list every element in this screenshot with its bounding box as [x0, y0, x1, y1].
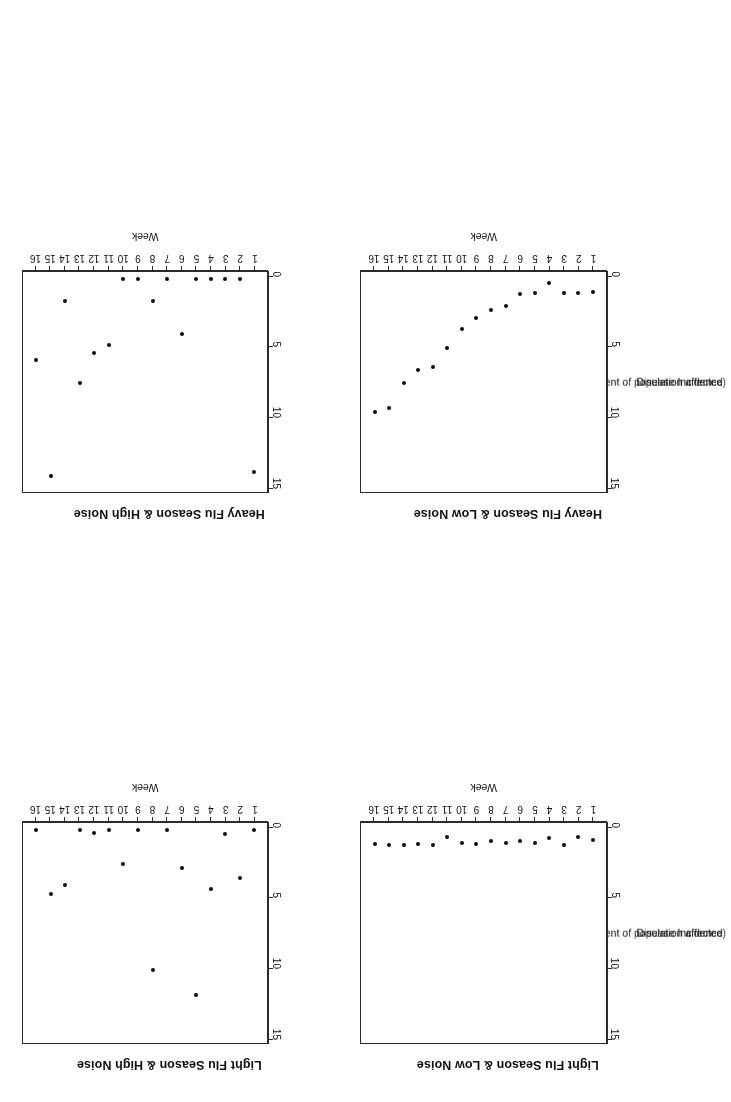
- data-point: [223, 277, 227, 281]
- x-tick-label: 1: [591, 253, 597, 264]
- x-tick: [108, 817, 109, 822]
- data-point: [165, 277, 169, 281]
- x-tick-label: 5: [532, 804, 538, 815]
- x-tick: [534, 817, 535, 822]
- x-tick: [210, 266, 211, 271]
- data-point: [151, 968, 155, 972]
- data-point: [576, 835, 580, 839]
- x-tick-label: 6: [518, 253, 524, 264]
- y-tick-label: 0: [610, 822, 621, 828]
- x-tick: [505, 266, 506, 271]
- data-point: [92, 831, 96, 835]
- x-tick-label: 2: [576, 253, 582, 264]
- y-tick-label: 10: [271, 958, 282, 969]
- x-axis: 12345678910111213141516: [22, 245, 269, 271]
- data-point: [402, 843, 406, 847]
- y-axis: 051015: [607, 822, 629, 1044]
- y-tick-label: 15: [610, 1028, 621, 1039]
- data-point: [416, 842, 420, 846]
- plot-area: [22, 822, 269, 1044]
- x-tick-label: 9: [474, 804, 480, 815]
- x-axis-line: [22, 270, 269, 271]
- data-point: [475, 316, 479, 320]
- x-tick: [35, 266, 36, 271]
- data-point: [180, 866, 184, 870]
- x-tick: [166, 266, 167, 271]
- x-tick: [108, 266, 109, 271]
- data-point: [431, 365, 435, 369]
- data-point: [591, 838, 595, 842]
- y-tick-label: 15: [610, 477, 621, 488]
- panel-title: Heavy Flu Season & Low Noise: [339, 507, 678, 521]
- data-point: [431, 843, 435, 847]
- x-tick-label: 12: [89, 253, 100, 264]
- x-tick: [432, 266, 433, 271]
- panel-title: Light Flu Season & High Noise: [0, 1058, 339, 1072]
- data-point: [165, 828, 169, 832]
- x-tick: [152, 817, 153, 822]
- x-tick: [534, 266, 535, 271]
- x-tick: [64, 817, 65, 822]
- x-tick: [446, 817, 447, 822]
- data-point: [373, 410, 377, 414]
- x-tick-label: 5: [194, 804, 200, 815]
- data-point: [547, 281, 551, 285]
- x-tick-label: 8: [150, 253, 156, 264]
- data-point: [460, 327, 464, 331]
- data-point: [252, 470, 256, 474]
- x-tick: [210, 817, 211, 822]
- y-axis-title: Disease Incidence(percent of population …: [659, 822, 673, 1044]
- x-tick: [181, 817, 182, 822]
- x-tick: [137, 817, 138, 822]
- data-point: [504, 841, 508, 845]
- x-tick-label: 6: [518, 804, 524, 815]
- x-tick-label: 10: [456, 253, 467, 264]
- x-tick-label: 10: [118, 804, 129, 815]
- x-tick: [505, 817, 506, 822]
- data-point: [107, 343, 111, 347]
- x-tick: [166, 817, 167, 822]
- x-tick: [254, 817, 255, 822]
- x-tick: [446, 266, 447, 271]
- y-tick-label: 5: [610, 342, 621, 348]
- x-tick-label: 2: [576, 804, 582, 815]
- data-point: [78, 381, 82, 385]
- data-point: [180, 332, 184, 336]
- x-tick-label: 3: [223, 253, 229, 264]
- data-point: [489, 308, 493, 312]
- panel-light-high: Light Flu Season & High Noise 051015 123…: [0, 551, 339, 1102]
- x-tick-label: 12: [427, 253, 438, 264]
- data-point: [151, 299, 155, 303]
- y-tick-label: 5: [271, 893, 282, 899]
- x-axis: 12345678910111213141516: [361, 796, 608, 822]
- x-axis-title: Week: [361, 231, 608, 243]
- x-tick-label: 4: [547, 804, 553, 815]
- y-tick-label: 10: [271, 407, 282, 418]
- x-tick-label: 16: [369, 804, 380, 815]
- x-tick-label: 16: [369, 253, 380, 264]
- data-point: [107, 828, 111, 832]
- x-tick-label: 11: [442, 253, 452, 264]
- x-tick-label: 11: [442, 804, 452, 815]
- x-axis-line: [22, 821, 269, 822]
- data-point: [504, 304, 508, 308]
- data-point: [445, 835, 449, 839]
- x-tick-label: 12: [89, 804, 100, 815]
- data-point: [416, 368, 420, 372]
- x-tick: [93, 817, 94, 822]
- y-axis: 051015: [269, 271, 291, 493]
- x-tick-label: 4: [208, 253, 214, 264]
- x-tick-label: 7: [503, 253, 509, 264]
- x-tick: [563, 817, 564, 822]
- x-tick-label: 1: [591, 804, 597, 815]
- x-tick-label: 2: [238, 253, 244, 264]
- x-tick-label: 7: [164, 253, 170, 264]
- x-tick: [49, 266, 50, 271]
- y-axis-title: Disease Incidence(percent of population …: [659, 271, 673, 493]
- x-tick: [417, 266, 418, 271]
- y-tick-label: 0: [271, 271, 282, 277]
- x-tick: [461, 817, 462, 822]
- y-tick-label: 15: [271, 477, 282, 488]
- x-tick: [78, 266, 79, 271]
